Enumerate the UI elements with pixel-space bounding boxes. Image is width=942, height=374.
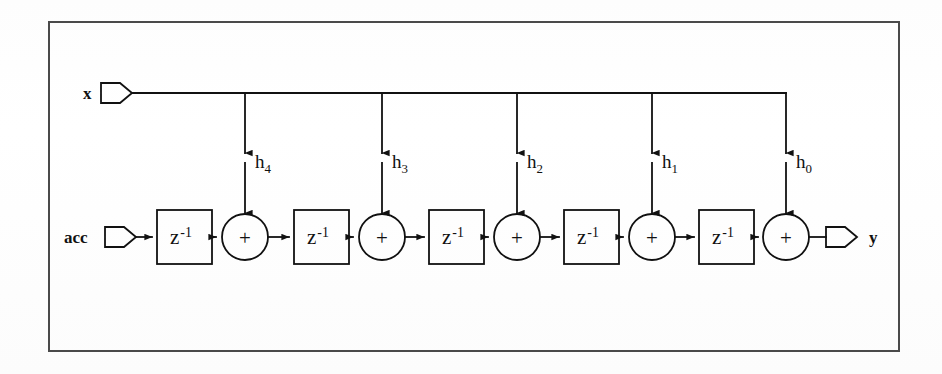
adder-symbol-1: + (239, 228, 251, 249)
delay-block-label-3: z-1 (442, 226, 464, 248)
coefficient-label-h3: h3 (392, 152, 408, 175)
coefficient-label-h1: h1 (662, 152, 678, 175)
coefficient-sub-h2: 2 (537, 161, 543, 176)
figure-canvas: x acc y h4 h3 h2 h1 h0 z-1 z-1 z-1 z-1 z… (0, 0, 942, 374)
coefficient-label-h2: h2 (527, 152, 543, 175)
port-shape-acc (105, 227, 136, 247)
coefficient-base-h4: h (255, 151, 265, 172)
coefficient-sub-h4: 4 (265, 161, 271, 176)
delay-exp-5: -1 (722, 225, 734, 240)
delay-block-label-5: z-1 (712, 226, 734, 248)
port-label-acc: acc (64, 229, 88, 246)
port-label-y: y (869, 229, 878, 246)
coefficient-base-h1: h (662, 151, 672, 172)
coefficient-base-h0: h (796, 151, 806, 172)
delay-block-label-4: z-1 (577, 226, 599, 248)
coefficient-base-h3: h (392, 151, 402, 172)
delay-base-2: z (307, 225, 316, 249)
coefficient-base-h2: h (527, 151, 537, 172)
coefficient-label-h0: h0 (796, 152, 812, 175)
coefficient-label-h4: h4 (255, 152, 271, 175)
adder-symbol-3: + (511, 228, 523, 249)
delay-exp-4: -1 (587, 225, 599, 240)
coefficient-sub-h3: 3 (402, 161, 408, 176)
coefficient-sub-h0: 0 (806, 161, 812, 176)
adder-symbol-4: + (646, 228, 658, 249)
adder-symbol-2: + (376, 228, 388, 249)
delay-exp-3: -1 (452, 225, 464, 240)
delay-block-label-2: z-1 (307, 226, 329, 248)
adder-symbol-5: + (780, 228, 792, 249)
delay-base-4: z (577, 225, 586, 249)
delay-base-5: z (712, 225, 721, 249)
coefficient-sub-h1: 1 (672, 161, 678, 176)
delay-base-3: z (442, 225, 451, 249)
delay-base-1: z (170, 225, 179, 249)
port-label-x: x (83, 85, 92, 102)
diagram-wiring (0, 0, 942, 374)
delay-block-label-1: z-1 (170, 226, 192, 248)
delay-exp-1: -1 (180, 225, 192, 240)
port-shape-x (101, 83, 132, 103)
port-shape-y (826, 227, 857, 247)
delay-exp-2: -1 (317, 225, 329, 240)
